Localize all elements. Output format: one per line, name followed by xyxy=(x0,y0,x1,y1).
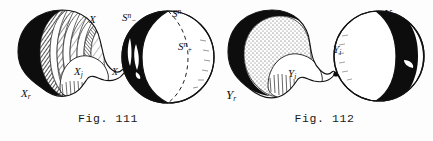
figure-111-caption: Fig. 111 xyxy=(0,112,216,125)
label-x-j: Xj xyxy=(74,66,83,79)
figure-112-panel: Yr Yi Yi Yr Fig. 112 xyxy=(216,0,433,141)
label-s-n-minus: Sn− xyxy=(122,12,136,25)
figure-112-drawing xyxy=(216,0,433,112)
figure-112-caption: Fig. 112 xyxy=(216,112,433,125)
label-y-i-blob: Yi xyxy=(288,68,296,81)
label-s-n: Sn xyxy=(172,8,181,19)
sphere-111 xyxy=(110,11,216,112)
figure-111-panel: X Xj X Xr Sn− Sn Sn+ Fig. 111 xyxy=(0,0,216,141)
label-x-r: Xr xyxy=(21,88,31,101)
label-s-n-plus: Sn+ xyxy=(178,41,192,54)
label-y-r-right: Yr xyxy=(384,7,394,22)
figure-page: X Xj X Xr Sn− Sn Sn+ Fig. 111 xyxy=(0,0,433,141)
label-y-i-sphere: Yi xyxy=(333,44,341,57)
label-y-r-left: Yr xyxy=(226,88,236,103)
label-x-neck: X xyxy=(112,68,118,78)
label-x: X xyxy=(89,14,96,25)
figure-111-drawing xyxy=(0,0,216,112)
sphere-112 xyxy=(334,11,428,112)
